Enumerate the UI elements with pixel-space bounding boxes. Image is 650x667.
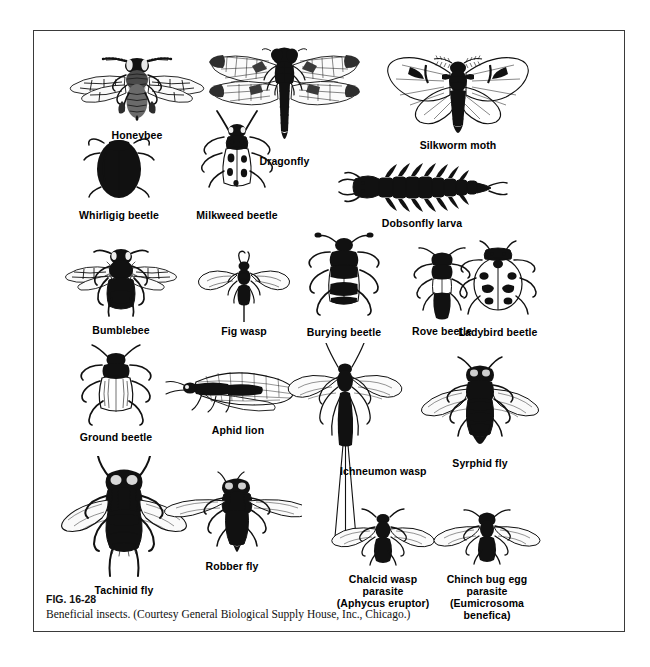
chinch-bug-egg-parasite-illustration	[424, 499, 550, 573]
figure-plate: Honeybee	[33, 30, 625, 632]
specimen-robber-fly: Robber fly	[162, 468, 302, 572]
milkweed-beetle-illustration	[174, 109, 300, 209]
specimen-ladybird-beetle: Ladybird beetle	[432, 234, 564, 338]
bumblebee-illustration	[56, 236, 186, 324]
caption-silkworm-moth: Silkworm moth	[374, 139, 542, 151]
caption-milkweed-beetle: Milkweed beetle	[174, 209, 300, 221]
specimen-bumblebee: Bumblebee	[56, 236, 186, 336]
caption-burying-beetle: Burying beetle	[282, 326, 406, 338]
caption-chinch-line-1: Chinch bug egg	[424, 573, 550, 585]
figure-number: FIG. 16-28	[46, 592, 466, 606]
figure-credit-text: Beneficial insects. (Courtesy General Bi…	[46, 607, 466, 622]
ladybird-beetle-illustration	[432, 234, 564, 326]
specimen-syrphid-fly: Syrphid fly	[412, 353, 548, 469]
caption-syrphid-fly: Syrphid fly	[412, 457, 548, 469]
burying-beetle-illustration	[282, 226, 406, 326]
ground-beetle-illustration	[52, 341, 180, 431]
robber-fly-illustration	[162, 468, 302, 560]
caption-bumblebee: Bumblebee	[56, 324, 186, 336]
caption-robber-fly: Robber fly	[162, 560, 302, 572]
specimen-grid: Honeybee	[34, 31, 624, 631]
dobsonfly-larva-illustration	[329, 159, 515, 217]
silkworm-moth-illustration	[374, 41, 542, 139]
specimen-burying-beetle: Burying beetle	[282, 226, 406, 338]
caption-whirligig-beetle: Whirligig beetle	[56, 209, 182, 221]
figure-credit-block: FIG. 16-28 Beneficial insects. (Courtesy…	[46, 592, 466, 622]
specimen-silkworm-moth: Silkworm moth	[374, 41, 542, 151]
caption-ground-beetle: Ground beetle	[52, 431, 180, 443]
syrphid-fly-illustration	[412, 353, 548, 457]
whirligig-beetle-illustration	[56, 129, 182, 209]
specimen-ground-beetle: Ground beetle	[52, 341, 180, 443]
specimen-dobsonfly-larva: Dobsonfly larva	[329, 159, 515, 229]
caption-ladybird-beetle: Ladybird beetle	[432, 326, 564, 338]
specimen-whirligig-beetle: Whirligig beetle	[56, 129, 182, 221]
specimen-milkweed-beetle: Milkweed beetle	[174, 109, 300, 221]
